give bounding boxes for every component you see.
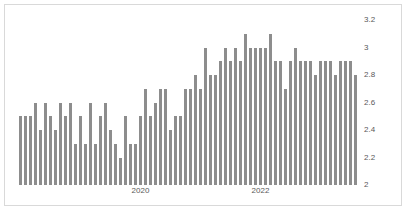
x-axis-labels: 20202022 bbox=[0, 0, 406, 210]
bar-chart-figure: 22.22.42.62.833.2 20202022 bbox=[0, 0, 406, 210]
x-axis-tick-label: 2022 bbox=[252, 186, 270, 195]
x-axis-tick-label: 2020 bbox=[132, 186, 150, 195]
